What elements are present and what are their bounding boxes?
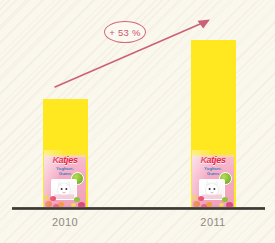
bag-subtitle-line2: Gums <box>207 171 219 176</box>
bag-subtitle-line2: Gums <box>59 171 71 176</box>
axis-label-2011: 2011 <box>178 216 248 228</box>
product-bag-2010: Katjes Yoghurt- Gums <box>44 150 86 209</box>
bar-chart-figure: Katjes Yoghurt- Gums <box>0 0 275 243</box>
growth-percent-value: + 53 % <box>109 27 141 38</box>
growth-percent-badge: + 53 % <box>104 21 146 43</box>
baseline-axis <box>12 207 265 210</box>
axis-label-2010: 2010 <box>30 216 100 228</box>
bag-brand-label: Katjes <box>194 156 232 165</box>
bag-brand-label: Katjes <box>46 156 84 165</box>
product-bag-2011: Katjes Yoghurt- Gums <box>192 150 234 209</box>
